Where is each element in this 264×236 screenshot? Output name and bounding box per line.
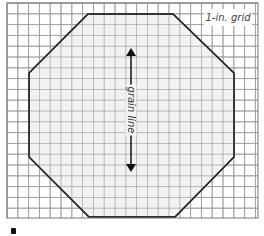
corner-mark [11, 228, 16, 234]
grain-line-label: grain line [126, 85, 137, 136]
grid-scale-text: 1-in. grid [205, 12, 250, 23]
grid-scale-label: 1-in. grid [204, 9, 252, 26]
